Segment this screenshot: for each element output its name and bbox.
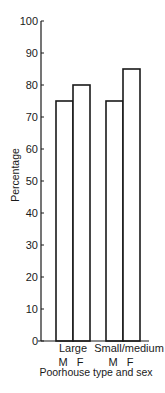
group-label: Large <box>59 342 87 354</box>
bar-large-m <box>56 101 73 341</box>
y-tick-label: 0 <box>32 335 38 347</box>
bar-large-f <box>73 85 90 341</box>
y-tick-label: 90 <box>26 47 38 59</box>
group-label: Small/medium <box>94 342 164 354</box>
y-tick-label: 40 <box>26 207 38 219</box>
x-axis: LargeSmall/mediumMFMF <box>38 341 164 368</box>
bar-small-medium-m <box>106 101 123 341</box>
bar-small-medium-f <box>123 69 140 341</box>
bars <box>56 69 140 341</box>
y-tick-label: 60 <box>26 143 38 155</box>
y-tick-label: 20 <box>26 271 38 283</box>
x-axis-title: Poorhouse type and sex <box>39 366 153 378</box>
y-tick-label: 50 <box>26 175 38 187</box>
y-tick-label: 70 <box>26 111 38 123</box>
y-tick-label: 30 <box>26 239 38 251</box>
y-tick-label: 100 <box>20 15 38 27</box>
y-axis-title: Percentage <box>9 148 21 202</box>
y-tick-label: 10 <box>26 303 38 315</box>
bar-chart: 0102030405060708090100 LargeSmall/medium… <box>0 0 165 393</box>
y-axis: 0102030405060708090100 <box>20 15 44 347</box>
y-tick-label: 80 <box>26 79 38 91</box>
